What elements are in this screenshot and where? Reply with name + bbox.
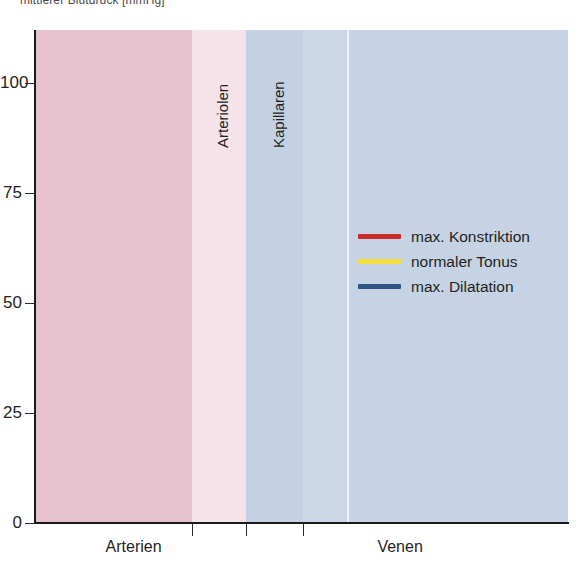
- x-section-label-arterien: Arterien: [106, 538, 162, 556]
- y-tick-mark: [25, 303, 35, 304]
- x-tick-mark: [192, 524, 193, 536]
- y-tick-label: 100: [0, 73, 22, 93]
- legend-color-swatch: [358, 234, 401, 239]
- legend-color-swatch: [358, 284, 401, 289]
- chart-title: mittlerer Blutdruck [mmHg]: [20, 0, 165, 7]
- y-tick-label: 0: [0, 513, 22, 533]
- chart-figure: mittlerer Blutdruck [mmHg] 1007550250 Ar…: [0, 0, 586, 570]
- legend-label: max. Konstriktion: [411, 228, 530, 246]
- band-divider-line: [347, 30, 349, 523]
- band-label-kapillaren: Kapillaren: [270, 81, 287, 148]
- legend-item: max. Konstriktion: [358, 224, 543, 249]
- y-tick-mark: [25, 193, 35, 194]
- band-arterien: [35, 30, 192, 523]
- x-section-label-venen: Venen: [377, 538, 422, 556]
- band-label-arteriolen: Arteriolen: [214, 84, 231, 148]
- chart-legend: max. Konstriktionnormaler Tonusmax. Dila…: [358, 224, 543, 299]
- legend-label: max. Dilatation: [411, 278, 514, 296]
- legend-item: normaler Tonus: [358, 249, 543, 274]
- x-tick-mark: [246, 524, 247, 536]
- legend-color-swatch: [358, 259, 401, 264]
- y-tick-label: 75: [0, 183, 22, 203]
- band-venen-inner-divider: [303, 30, 347, 523]
- y-tick-label: 50: [0, 293, 22, 313]
- y-axis-line: [34, 30, 36, 524]
- y-tick-label: 25: [0, 403, 22, 423]
- x-tick-mark: [303, 524, 304, 536]
- y-tick-mark: [25, 413, 35, 414]
- x-axis-line: [34, 522, 569, 524]
- legend-item: max. Dilatation: [358, 274, 543, 299]
- legend-label: normaler Tonus: [411, 253, 518, 271]
- y-tick-mark: [25, 523, 35, 524]
